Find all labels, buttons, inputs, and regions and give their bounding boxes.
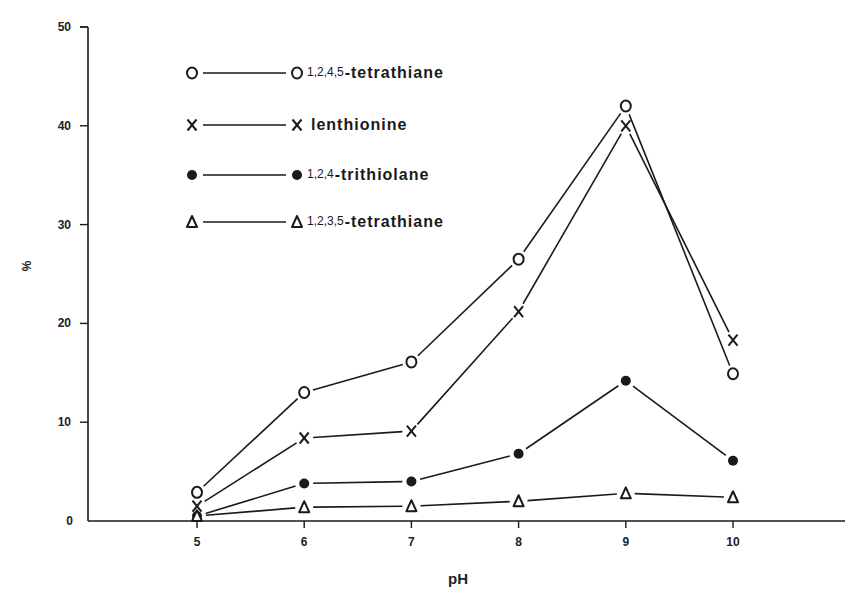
series-segment: [418, 265, 512, 355]
circle-marker-icon: [187, 68, 197, 79]
y-tick-label: 50: [58, 20, 72, 34]
x-tick-label: 9: [622, 535, 629, 549]
cross-marker-icon: [188, 120, 197, 131]
legend-label: 1,2,4,5-tetrathiane: [307, 64, 444, 81]
circle-marker-icon: [192, 487, 202, 498]
y-tick-label: 20: [58, 316, 72, 330]
circle-marker-icon: [514, 254, 524, 265]
y-axis-title: %: [19, 261, 33, 272]
line-chart: 010203040505678910pH% 1,2,4,5-tetrathian…: [0, 0, 860, 599]
cross-marker-icon: [621, 120, 630, 131]
triangle-marker-icon: [514, 495, 524, 506]
cross-marker-icon: [293, 120, 302, 131]
series-segment: [313, 506, 402, 507]
x-tick-label: 6: [301, 535, 308, 549]
series-1-2-4-trithiolane: [192, 376, 738, 521]
series-segment: [313, 482, 402, 484]
circle-marker-icon: [299, 387, 309, 398]
triangle-marker-icon: [728, 491, 738, 502]
series-segment: [420, 456, 510, 479]
series-segment: [204, 399, 298, 487]
cross-marker-icon: [729, 335, 738, 346]
cross-marker-icon: [514, 306, 523, 317]
legend: 1,2,4,5-tetrathianelenthionine1,2,4-trit…: [187, 64, 444, 230]
filled-dot-marker-icon: [299, 478, 309, 488]
legend-item: 1,2,4-trithiolane: [187, 166, 429, 183]
filled-dot-marker-icon: [406, 476, 416, 486]
x-tick-label: 10: [726, 535, 740, 549]
circle-marker-icon: [292, 68, 302, 79]
legend-label: lenthionine: [311, 116, 407, 133]
series-segment: [633, 386, 726, 455]
series-segment: [629, 114, 730, 365]
legend-label: 1,2,4-trithiolane: [307, 166, 429, 183]
y-tick-label: 0: [66, 514, 73, 528]
x-tick-label: 5: [194, 535, 201, 549]
series-segment: [524, 113, 621, 251]
filled-dot-marker-icon: [621, 376, 631, 386]
filled-dot-marker-icon: [187, 170, 197, 180]
filled-dot-marker-icon: [292, 170, 302, 180]
series-segment: [526, 386, 618, 449]
triangle-marker-icon: [406, 500, 416, 511]
series-1-2-4-5-tetrathiane: [192, 101, 738, 498]
legend-item: lenthionine: [188, 116, 408, 133]
axes: 010203040505678910pH%: [19, 20, 845, 587]
legend-label: 1,2,3,5-tetrathiane: [307, 213, 444, 230]
triangle-marker-icon: [292, 216, 302, 227]
circle-marker-icon: [621, 101, 631, 112]
triangle-marker-icon: [299, 501, 309, 512]
series-segment: [313, 364, 403, 390]
circle-marker-icon: [728, 368, 738, 379]
series-group: [192, 101, 738, 522]
cross-marker-icon: [300, 433, 309, 444]
legend-item: 1,2,3,5-tetrathiane: [187, 213, 444, 230]
series-segment: [417, 318, 512, 424]
cross-marker-icon: [407, 426, 416, 437]
legend-item: 1,2,4,5-tetrathiane: [187, 64, 444, 81]
series-segment: [313, 432, 402, 438]
series-segment: [528, 494, 617, 501]
triangle-marker-icon: [621, 487, 631, 498]
series-segment: [630, 134, 729, 332]
triangle-marker-icon: [187, 216, 197, 227]
y-tick-label: 40: [58, 119, 72, 133]
filled-dot-marker-icon: [514, 449, 524, 459]
series-segment: [523, 134, 621, 304]
circle-marker-icon: [406, 356, 416, 367]
series-segment: [420, 502, 509, 506]
y-tick-label: 10: [58, 415, 72, 429]
series-segment: [635, 494, 724, 497]
x-axis-title: pH: [448, 570, 468, 587]
filled-dot-marker-icon: [728, 456, 738, 466]
x-tick-label: 7: [408, 535, 415, 549]
x-tick-label: 8: [515, 535, 522, 549]
y-tick-label: 30: [58, 218, 72, 232]
